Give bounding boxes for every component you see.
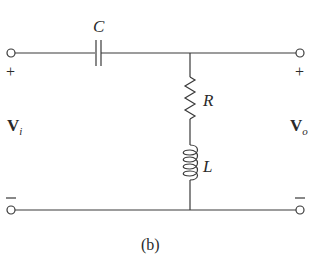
resistor-label: R [202,91,214,110]
input-terminal-bottom [7,206,15,214]
output-plus-sign: + [295,63,304,80]
input-terminal-top [7,49,15,57]
capacitor-label: C [93,17,105,36]
input-voltage-label: Vi [7,116,22,137]
figure-caption: (b) [141,236,160,254]
output-voltage-label: Vo [290,116,308,137]
input-plus-sign: + [6,63,15,80]
output-terminal-bottom [296,206,304,214]
resistor-icon [185,77,195,119]
circuit-diagram: C R L + + Vi Vo (b) [0,0,310,261]
inductor-label: L [202,157,212,176]
inductor-icon [183,145,197,180]
output-terminal-top [296,49,304,57]
